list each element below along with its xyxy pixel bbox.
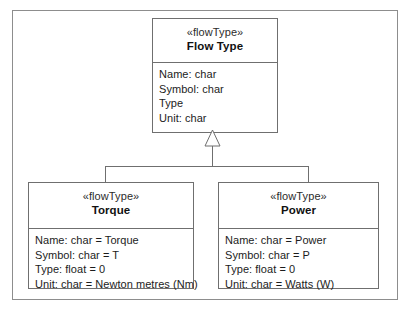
class-header-torque: «flowType» Torque: [29, 183, 193, 229]
generalization-arrowhead-icon: [204, 129, 221, 147]
class-stereotype: «flowType»: [29, 189, 193, 203]
class-stereotype: «flowType»: [219, 189, 378, 203]
attribute-row: Symbol: char = T: [35, 248, 188, 263]
class-attributes-power: Name: char = Power Symbol: char = P Type…: [219, 229, 378, 294]
attribute-row: Unit: char = Watts (W): [225, 277, 373, 292]
attribute-row: Type: float = 0: [225, 262, 373, 277]
uml-class-diagram: «flowType» Flow Type Name: char Symbol: …: [0, 0, 414, 311]
class-header-flow-type: «flowType» Flow Type: [153, 19, 277, 63]
attribute-row: Unit: char = Newton metres (Nm): [35, 277, 188, 292]
class-box-power[interactable]: «flowType» Power Name: char = Power Symb…: [218, 182, 379, 289]
attribute-row: Symbol: char = P: [225, 248, 373, 263]
attribute-row: Type: float = 0: [35, 262, 188, 277]
attribute-row: Name: char: [159, 67, 272, 82]
generalization-drop-left: [105, 166, 106, 183]
generalization-stem: [212, 146, 213, 167]
generalization-branch-bar: [105, 166, 309, 167]
class-header-power: «flowType» Power: [219, 183, 378, 229]
class-attributes-flow-type: Name: char Symbol: char Type Unit: char: [153, 63, 277, 128]
attribute-row: Type: [159, 96, 272, 111]
attribute-row: Name: char = Power: [225, 233, 373, 248]
class-attributes-torque: Name: char = Torque Symbol: char = T Typ…: [29, 229, 193, 294]
class-name: Torque: [29, 203, 193, 218]
class-box-flow-type[interactable]: «flowType» Flow Type Name: char Symbol: …: [152, 18, 278, 133]
attribute-row: Unit: char: [159, 111, 272, 126]
generalization-drop-right: [308, 166, 309, 183]
class-name: Power: [219, 203, 378, 218]
class-name: Flow Type: [153, 39, 277, 54]
attribute-row: Symbol: char: [159, 82, 272, 97]
class-box-torque[interactable]: «flowType» Torque Name: char = Torque Sy…: [28, 182, 194, 289]
attribute-row: Name: char = Torque: [35, 233, 188, 248]
class-stereotype: «flowType»: [153, 25, 277, 39]
